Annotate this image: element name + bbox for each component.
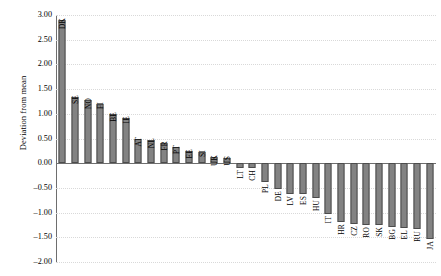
- y-axis-tick-labels: 3.002.502.001.501.000.500.00–0.50–1.00–1…: [0, 15, 52, 262]
- bar-category-label: HR: [337, 224, 344, 235]
- bar-category-label: BG: [388, 229, 395, 240]
- bar-category-label: CH: [249, 170, 256, 181]
- bar[interactable]: [401, 163, 408, 228]
- bar-slot: ES: [297, 15, 310, 262]
- bar-category-label: LT: [236, 170, 243, 179]
- bar-category-label: DK: [59, 18, 66, 29]
- bar-slot: CZ: [347, 15, 360, 262]
- bar-category-label: DE: [274, 191, 281, 201]
- bar[interactable]: [97, 104, 104, 163]
- bar-slot: DK: [56, 15, 69, 262]
- y-axis-tick-label: 0.50: [6, 135, 52, 143]
- bar[interactable]: [337, 163, 344, 222]
- bar-slot: NL: [145, 15, 158, 262]
- bar-category-label: RU: [413, 231, 420, 242]
- bar-category-label: UK: [211, 155, 218, 166]
- bar-slot: AT: [132, 15, 145, 262]
- bar-category-label: US: [223, 156, 230, 166]
- y-axis-tick-label: –1.00: [6, 209, 52, 217]
- y-axis-tick-label: 2.50: [6, 36, 52, 44]
- bar-series: DKSENOFIBEIEATNLFRPTEESIUKUSLTCHPLDELVES…: [56, 15, 436, 262]
- bar-category-label: EE: [185, 149, 192, 158]
- y-axis-tick-label: 2.00: [6, 60, 52, 68]
- bar-category-label: CZ: [350, 226, 357, 236]
- bar[interactable]: [350, 163, 357, 224]
- bar-slot: RO: [360, 15, 373, 262]
- bar-category-label: SK: [375, 227, 382, 237]
- bar-slot: FR: [157, 15, 170, 262]
- y-axis-tick-label: –1.50: [6, 233, 52, 241]
- bar-slot: IE: [119, 15, 132, 262]
- y-axis-tick-label: –0.50: [6, 184, 52, 192]
- bar-category-label: IT: [325, 216, 332, 223]
- bar[interactable]: [122, 118, 129, 163]
- bar-slot: EL: [398, 15, 411, 262]
- bar-slot: IT: [322, 15, 335, 262]
- bar-slot: HU: [309, 15, 322, 262]
- bar[interactable]: [274, 163, 281, 189]
- bar[interactable]: [299, 163, 306, 194]
- bar[interactable]: [325, 163, 332, 213]
- bar-slot: SI: [195, 15, 208, 262]
- bar[interactable]: [312, 163, 319, 198]
- bar-category-label: SI: [198, 150, 205, 157]
- bar-category-label: AT: [135, 137, 142, 146]
- bar-slot: BE: [107, 15, 120, 262]
- bar[interactable]: [287, 163, 294, 194]
- bar-category-label: RO: [363, 227, 370, 238]
- bar-slot: EE: [183, 15, 196, 262]
- bar-slot: JA: [423, 15, 436, 262]
- bar-category-label: PT: [173, 145, 180, 154]
- bar-slot: FI: [94, 15, 107, 262]
- bar-slot: PT: [170, 15, 183, 262]
- bar-category-label: SE: [71, 95, 78, 104]
- bar[interactable]: [426, 163, 433, 239]
- bar-category-label: HU: [312, 200, 319, 211]
- bar[interactable]: [388, 163, 395, 227]
- bar-slot: SE: [69, 15, 82, 262]
- y-axis-tick-label: –2.00: [6, 258, 52, 266]
- bar-slot: HR: [335, 15, 348, 262]
- y-axis-tick-label: 3.00: [6, 11, 52, 19]
- bar-category-label: NO: [84, 98, 91, 109]
- bar-category-label: PL: [261, 184, 268, 193]
- bar-slot: US: [221, 15, 234, 262]
- bar-slot: CH: [246, 15, 259, 262]
- bar-category-label: LV: [287, 196, 294, 206]
- bar-slot: LV: [284, 15, 297, 262]
- bar-category-label: FI: [97, 102, 104, 109]
- bar[interactable]: [59, 20, 66, 163]
- bar-chart: Deviation from mean 3.002.502.001.501.00…: [0, 0, 441, 276]
- bar-slot: RU: [411, 15, 424, 262]
- bar-slot: NO: [81, 15, 94, 262]
- bar-slot: PL: [259, 15, 272, 262]
- bar-category-label: NL: [147, 138, 154, 148]
- bar[interactable]: [71, 97, 78, 164]
- bar-slot: DE: [271, 15, 284, 262]
- bar-category-label: EL: [401, 230, 408, 239]
- bar-category-label: JA: [426, 241, 433, 250]
- bar-slot: UK: [208, 15, 221, 262]
- bar-category-label: IE: [122, 116, 129, 123]
- bar-slot: SK: [373, 15, 386, 262]
- bar-slot: LT: [233, 15, 246, 262]
- bar[interactable]: [236, 163, 243, 167]
- bar[interactable]: [375, 163, 382, 225]
- bar[interactable]: [84, 100, 91, 163]
- bar[interactable]: [363, 163, 370, 225]
- bar-slot: BG: [385, 15, 398, 262]
- y-axis-tick-label: 0.00: [6, 159, 52, 167]
- y-axis-tick-label: 1.50: [6, 85, 52, 93]
- y-axis-tick-label: 1.00: [6, 110, 52, 118]
- bar[interactable]: [249, 163, 256, 168]
- bar-category-label: FR: [160, 141, 167, 150]
- bar[interactable]: [413, 163, 420, 229]
- gridline: [56, 262, 436, 263]
- plot-area: DKSENOFIBEIEATNLFRPTEESIUKUSLTCHPLDELVES…: [56, 15, 436, 262]
- bar-category-label: BE: [109, 112, 116, 122]
- bar-category-label: ES: [299, 196, 306, 205]
- bar[interactable]: [261, 163, 268, 182]
